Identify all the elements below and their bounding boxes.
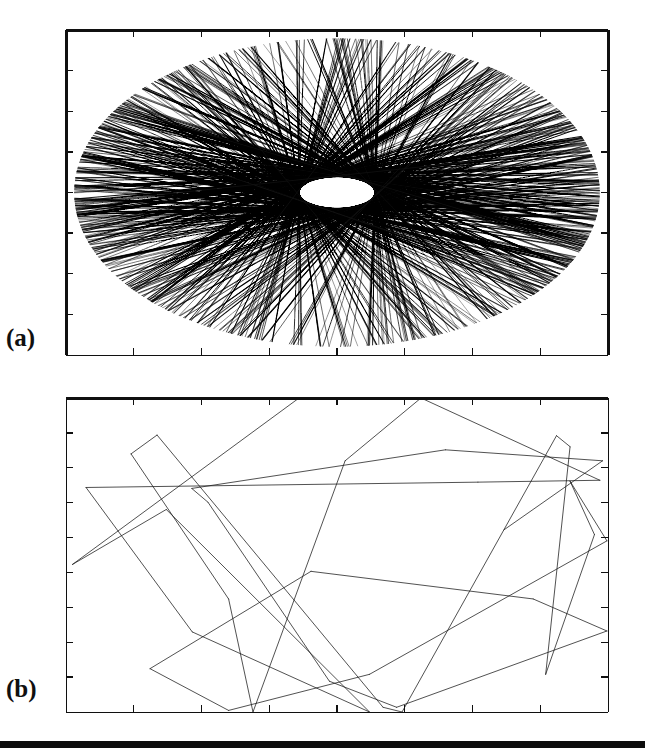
trajectory-segment [397,631,607,707]
trajectory-segment [150,669,229,711]
panel-b-plot [66,398,608,712]
trajectory-polyline [73,398,607,712]
trajectory-segment [329,681,396,707]
page-separator-rule [0,741,645,748]
trajectory-segment [192,632,369,712]
trajectory-segment [311,571,533,599]
figure-container: (a) (b) [0,0,645,756]
trajectory-segment [370,541,607,674]
trajectory-segment [570,481,594,534]
trajectory-segment [402,436,556,712]
panel-a-plot [66,30,608,355]
trajectory-segment [131,435,157,454]
trajectory-segment [192,450,446,489]
trajectory-segment [445,450,602,461]
trajectory-segment [421,398,600,480]
trajectory-segment [570,481,607,541]
trajectory-segment [345,398,421,461]
chord-bundle [74,38,600,347]
trajectory-segment [192,488,208,502]
trajectory-segment [208,502,329,681]
trajectory-segment [73,398,300,564]
trajectory-segment [557,436,571,447]
trajectory-segment [73,509,167,564]
trajectory-segment [86,487,192,631]
trajectory-segment [383,707,402,712]
trajectory-segment [131,454,229,599]
trajectory-segment [86,482,478,487]
trajectory-segment [229,599,253,712]
plots-canvas [0,0,645,756]
trajectory-segment [478,480,600,482]
trajectory-segment [166,509,369,712]
